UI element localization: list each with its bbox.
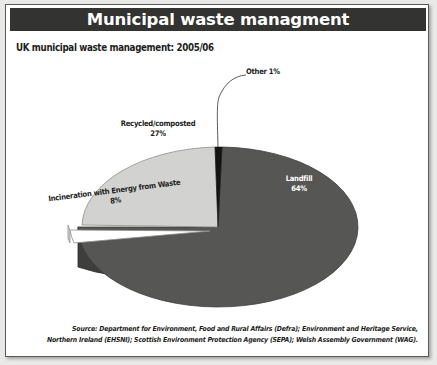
slice-label-recycled-value: 27%	[150, 129, 166, 138]
source-line-2: Northern Ireland (EHSNI); Scottish Envir…	[47, 335, 418, 346]
slice-label-other-text: Other 1%	[246, 67, 280, 76]
slice-label-incineration-value: 8%	[109, 195, 121, 205]
slice-label-recycled-name: Recycled/composted	[121, 119, 196, 128]
slice-label-other: Other 1%	[246, 67, 280, 76]
pie-chart: Other 1% Landfill 64% Recycled/composted…	[6, 57, 429, 315]
pie-chart-graphic	[6, 57, 429, 315]
source-line-1: Source: Department for Environment, Food…	[47, 324, 418, 335]
slice-label-landfill-value: 64%	[291, 184, 307, 193]
chart-card: Municipal waste managment UK municipal w…	[5, 4, 429, 357]
slice-label-landfill-name: Landfill	[286, 174, 313, 183]
screenshot-root: Municipal waste managment UK municipal w…	[0, 0, 437, 365]
source-note: Source: Department for Environment, Food…	[47, 324, 418, 346]
page-title: Municipal waste managment	[87, 10, 349, 29]
pie-slice-side-incineration	[68, 225, 70, 243]
other-leader-line	[217, 75, 246, 147]
slice-label-landfill: Landfill 64%	[264, 174, 334, 193]
chart-subtitle: UK municipal waste management: 2005/06	[16, 41, 214, 53]
slice-label-recycled: Recycled/composted 27%	[104, 119, 212, 138]
header-bar: Municipal waste managment	[10, 8, 426, 31]
